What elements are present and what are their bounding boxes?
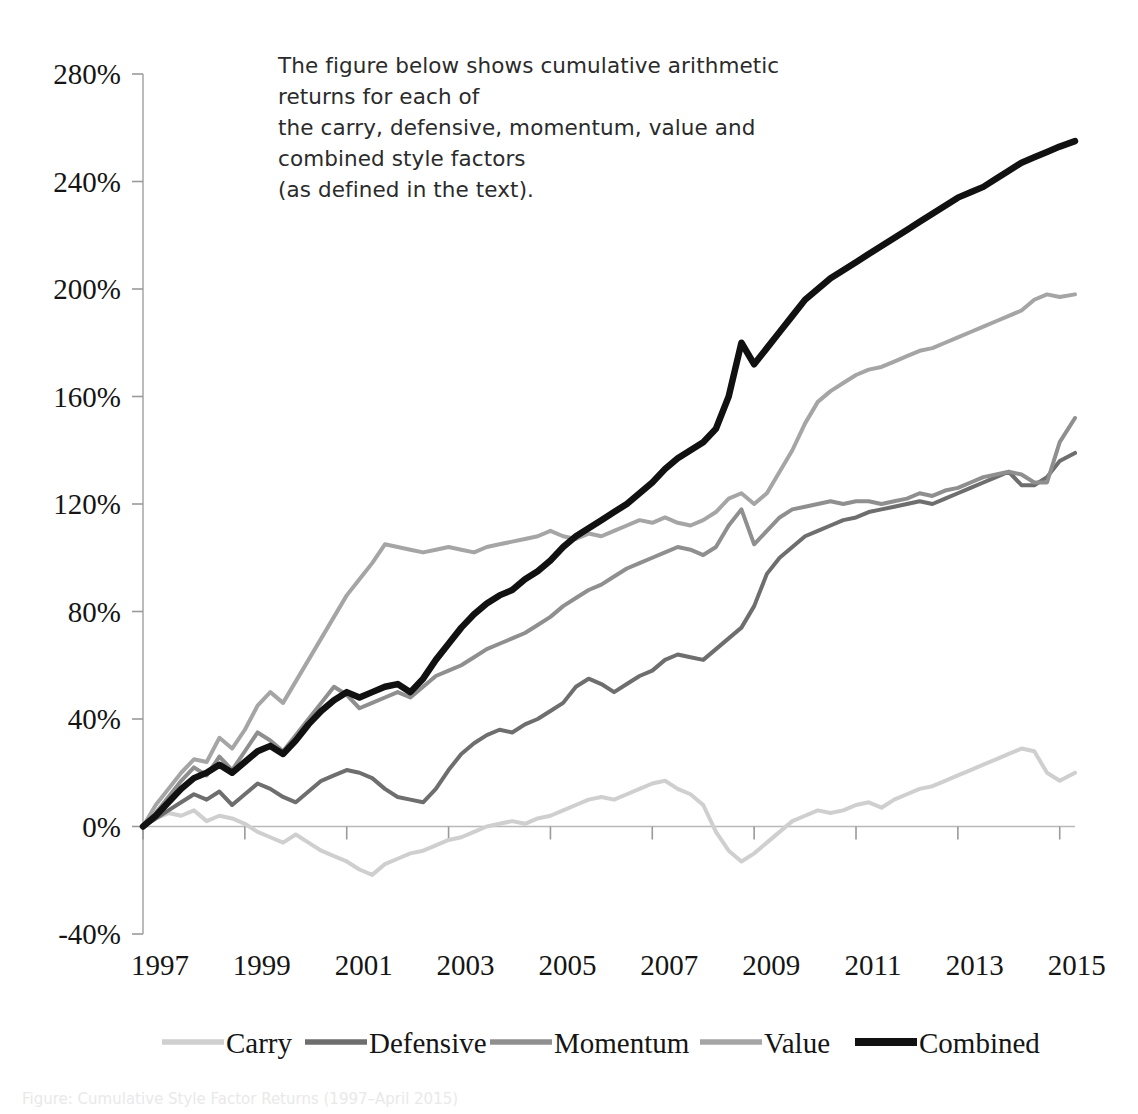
y-tick-label: 0% [82, 811, 121, 843]
figure-source-note: Figure: Cumulative Style Factor Returns … [22, 1090, 458, 1108]
series-line-combined [143, 141, 1075, 826]
chart-legend: CarryDefensiveMomentumValueCombined [162, 1027, 1040, 1059]
y-axis-tick-labels: 280%240%200%160%120%80%40%0%-40% [53, 58, 121, 950]
x-tick-label: 2007 [640, 949, 698, 981]
legend-label-defensive[interactable]: Defensive [369, 1027, 487, 1059]
x-tick-label: 1999 [233, 949, 291, 981]
y-tick-label: 120% [53, 488, 121, 520]
series-line-carry [143, 749, 1075, 875]
x-tick-label: 2011 [845, 949, 902, 981]
x-tick-label: 1997 [131, 949, 189, 981]
x-tick-label: 2015 [1048, 949, 1106, 981]
series-line-value [143, 294, 1075, 826]
y-tick-label: 80% [68, 596, 121, 628]
legend-label-combined[interactable]: Combined [919, 1027, 1040, 1059]
legend-label-value[interactable]: Value [764, 1027, 830, 1059]
legend-label-momentum[interactable]: Momentum [554, 1027, 690, 1059]
figure-root: The figure below shows cumulative arithm… [0, 0, 1138, 1114]
series-line-momentum [143, 418, 1075, 827]
y-tick-label: 240% [53, 166, 121, 198]
y-tick-label: 160% [53, 381, 121, 413]
series-lines-group [143, 141, 1075, 875]
x-tick-label: 2009 [742, 949, 800, 981]
x-tick-label: 2013 [946, 949, 1004, 981]
x-tick-label: 2001 [335, 949, 393, 981]
y-tick-label: 40% [68, 703, 121, 735]
x-tick-label: 2003 [437, 949, 495, 981]
legend-label-carry[interactable]: Carry [226, 1027, 293, 1059]
series-line-defensive [143, 453, 1075, 827]
y-tick-label: 280% [53, 58, 121, 90]
x-tick-label: 2005 [538, 949, 596, 981]
cumulative-returns-chart: 280%240%200%160%120%80%40%0%-40% 1997199… [0, 0, 1138, 1114]
y-tick-label: -40% [58, 918, 121, 950]
x-axis-tick-labels: 1997199920012003200520072009201120132015 [131, 949, 1106, 981]
y-tick-label: 200% [53, 273, 121, 305]
